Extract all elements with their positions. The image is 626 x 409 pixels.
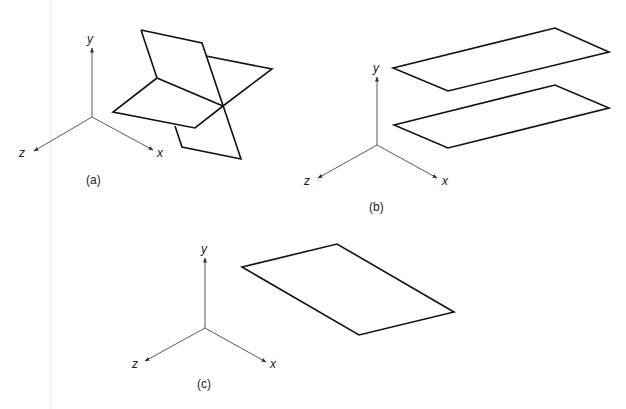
x-label-a: x [156, 146, 164, 160]
horizontal-plane [113, 56, 272, 128]
x-axis-a [92, 117, 153, 150]
x-label-b: x [441, 174, 449, 188]
y-label-b: y [372, 61, 380, 75]
x-axis-b [377, 145, 437, 178]
tilted-vertical-plane [141, 30, 241, 159]
x-axis-c [205, 328, 266, 362]
axes-c: y z x [131, 242, 277, 371]
panel-a: y z x (a) [18, 30, 272, 187]
x-label-c: x [269, 357, 277, 371]
planes-figure: y z x (a) y z x (b) y z x (c [0, 0, 626, 409]
axes-a: y z x [18, 32, 164, 160]
panel-b: y z x (b) [303, 28, 609, 214]
caption-b: (b) [369, 200, 384, 214]
z-axis-a [34, 117, 92, 151]
upper-plane [393, 28, 609, 91]
z-label-b: z [303, 174, 310, 188]
panel-c: y z x (c) [131, 242, 454, 391]
y-label-a: y [86, 32, 94, 46]
z-label-a: z [18, 146, 25, 160]
y-label-c: y [200, 242, 208, 256]
lower-plane [394, 85, 609, 148]
caption-a: (a) [86, 173, 101, 187]
z-axis-c [145, 328, 205, 361]
z-axis-b [318, 145, 377, 178]
z-label-c: z [131, 357, 138, 371]
axes-b: y z x [303, 61, 449, 188]
caption-c: (c) [197, 377, 211, 391]
single-plane [242, 244, 454, 335]
